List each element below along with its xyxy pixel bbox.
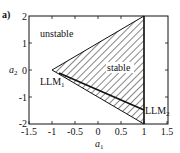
y-tick-label: 2 <box>22 11 27 22</box>
y-tick-label: 1 <box>22 38 27 49</box>
unstable-label: unstable <box>40 28 74 39</box>
stability-chart: -1.5 -1 -0.5 0 0.5 1 1.5 2 1 0 -1 -2 a) … <box>0 0 180 153</box>
y-tick-label: -1 <box>19 92 27 103</box>
y-tick-label: -2 <box>19 118 27 129</box>
y-tick-labels: 2 1 0 -1 -2 <box>19 11 27 129</box>
x-tick-labels: -1.5 -1 -0.5 0 0.5 1 1.5 <box>21 126 173 137</box>
x-tick-label: 1 <box>142 126 147 137</box>
panel-label: a) <box>2 9 10 21</box>
x-tick-label: 0.5 <box>115 126 128 137</box>
y-axis-label: a2 <box>9 64 18 77</box>
x-tick-label: 0 <box>96 126 101 137</box>
x-tick-label: -1 <box>48 126 56 137</box>
y-tick-label: 0 <box>22 65 27 76</box>
x-axis-label: a1 <box>95 138 104 151</box>
x-tick-label: -0.5 <box>67 126 83 137</box>
llm1-label: LLM1 <box>40 76 65 89</box>
x-tick-label: 1.5 <box>161 126 174 137</box>
stable-label: stable <box>107 62 131 73</box>
